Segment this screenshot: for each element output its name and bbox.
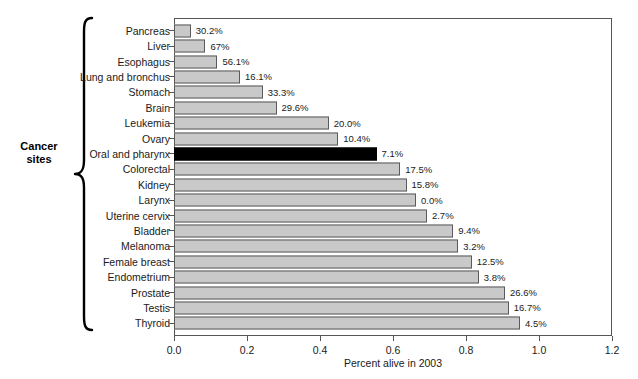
bar-row: 0.0%	[174, 194, 612, 207]
bar-value-label: 26.6%	[510, 288, 537, 298]
bar-row: 9.4%	[174, 224, 612, 237]
y-axis-label: Uterine cervix	[10, 210, 170, 221]
bar-value-label: 12.5%	[477, 257, 504, 267]
bar-value-label: 30.2%	[196, 26, 223, 36]
bar-row: 2.7%	[174, 209, 612, 222]
bar-row: 7.1%	[174, 147, 612, 160]
y-axis-label: Larynx	[10, 195, 170, 206]
x-axis-tick-mark	[174, 336, 175, 341]
bar-value-label: 0.0%	[421, 195, 443, 205]
bar-row: 20.0%	[174, 117, 612, 130]
bar	[174, 224, 453, 237]
bar-row: 10.4%	[174, 132, 612, 145]
y-axis-label: Female breast	[10, 256, 170, 267]
x-axis-tick-label: 0.2	[240, 344, 255, 356]
bar-row: 33.3%	[174, 86, 612, 99]
y-axis-label: Pancreas	[10, 25, 170, 36]
bar	[174, 209, 427, 222]
x-axis-tick-label: 0.8	[459, 344, 474, 356]
y-axis-label: Leukemia	[10, 118, 170, 129]
y-axis-label: Kidney	[10, 179, 170, 190]
bar	[174, 117, 329, 130]
bar-row: 26.6%	[174, 286, 612, 299]
y-axis-label: Melanoma	[10, 241, 170, 252]
bar-value-label: 16.1%	[245, 72, 272, 82]
bar	[174, 163, 400, 176]
bar-row: 29.6%	[174, 101, 612, 114]
bar-row: 30.2%	[174, 24, 612, 37]
x-axis-tick-label: 0.0	[167, 344, 182, 356]
bar	[174, 255, 472, 268]
bar-row: 67%	[174, 40, 612, 53]
x-axis-tick-label: 1.2	[605, 344, 620, 356]
y-axis-labels: PancreasLiverEsophagusLung and bronchusS…	[94, 22, 170, 330]
bar-row: 17.5%	[174, 163, 612, 176]
bar	[174, 40, 205, 53]
bar-value-label: 67%	[210, 41, 229, 51]
bar-row: 3.8%	[174, 271, 612, 284]
y-axis-label: Colorectal	[10, 164, 170, 175]
bar	[174, 194, 416, 207]
bar-value-label: 33.3%	[268, 87, 295, 97]
x-axis-tick-label: 0.6	[386, 344, 401, 356]
bar-value-label: 20.0%	[334, 118, 361, 128]
x-axis-title: Percent alive in 2003	[174, 357, 612, 369]
bar-value-label: 3.2%	[463, 241, 485, 251]
bar	[174, 271, 479, 284]
bar-value-label: 56.1%	[222, 57, 249, 67]
bar-value-label: 9.4%	[458, 226, 480, 236]
y-axis-label: Esophagus	[10, 56, 170, 67]
bar	[174, 317, 520, 330]
bar-value-label: 2.7%	[432, 211, 454, 221]
x-axis-tick-mark	[612, 336, 613, 341]
bar-row: 3.2%	[174, 240, 612, 253]
y-axis-label: Thyroid	[10, 318, 170, 329]
bar-value-label: 15.8%	[412, 180, 439, 190]
bar-value-label: 29.6%	[282, 103, 309, 113]
bar-value-label: 17.5%	[405, 164, 432, 174]
x-axis-tick-label: 1.0	[532, 344, 547, 356]
bar-row: 16.7%	[174, 301, 612, 314]
bar	[174, 24, 191, 37]
bar	[174, 147, 377, 160]
bar	[174, 301, 509, 314]
bar	[174, 178, 407, 191]
bar-value-label: 7.1%	[382, 149, 404, 159]
bar	[174, 86, 263, 99]
bars-layer: 30.2%67%56.1%16.1%33.3%29.6%20.0%10.4%7.…	[174, 18, 612, 336]
y-axis-label: Liver	[10, 41, 170, 52]
y-axis-label: Ovary	[10, 133, 170, 144]
bar-value-label: 3.8%	[484, 272, 506, 282]
x-axis-ticks: 0.00.20.40.60.81.01.2	[174, 336, 612, 376]
bar-row: 4.5%	[174, 317, 612, 330]
x-axis-tick-mark	[320, 336, 321, 341]
y-axis-label: Stomach	[10, 87, 170, 98]
bar	[174, 286, 505, 299]
y-axis-label: Endometrium	[10, 272, 170, 283]
y-axis-label: Brain	[10, 102, 170, 113]
bar	[174, 240, 458, 253]
y-axis-label: Lung and bronchus	[10, 71, 170, 82]
y-axis-label: Prostate	[10, 287, 170, 298]
bar-value-label: 16.7%	[514, 303, 541, 313]
bar	[174, 132, 338, 145]
y-axis-label: Oral and pharynx	[10, 148, 170, 159]
bar-row: 16.1%	[174, 70, 612, 83]
bar-row: 56.1%	[174, 55, 612, 68]
bar	[174, 55, 217, 68]
bar-value-label: 10.4%	[343, 134, 370, 144]
bar-value-label: 4.5%	[525, 318, 547, 328]
x-axis-tick-mark	[393, 336, 394, 341]
x-axis-tick-mark	[539, 336, 540, 341]
bar	[174, 101, 277, 114]
x-axis-tick-label: 0.4	[313, 344, 328, 356]
x-axis-tick-mark	[247, 336, 248, 341]
bar-chart: Cancer sites PancreasLiverEsophagusLung …	[0, 0, 638, 379]
bar-row: 15.8%	[174, 178, 612, 191]
y-axis-label: Bladder	[10, 225, 170, 236]
x-axis-tick-mark	[466, 336, 467, 341]
bar-row: 12.5%	[174, 255, 612, 268]
y-axis-label: Testis	[10, 302, 170, 313]
bar	[174, 70, 240, 83]
